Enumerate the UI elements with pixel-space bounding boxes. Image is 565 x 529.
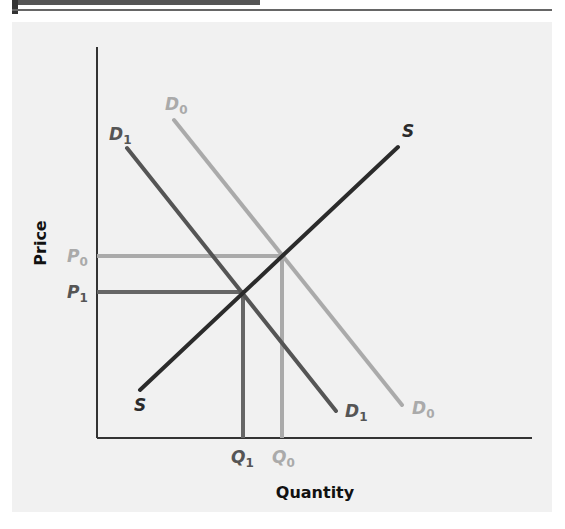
label-d1-top: D1 xyxy=(109,124,131,147)
label-s-bottom: S xyxy=(134,395,146,415)
label-s-top: S xyxy=(402,121,414,141)
label-d0-bottom: D0 xyxy=(412,398,434,421)
label-d1-bottom: D1 xyxy=(345,401,367,424)
label-q0: Q0 xyxy=(272,447,295,470)
supply-demand-diagram: S S D0 D0 D1 D1 P0 P1 Q1 Q0 Quantity Pri… xyxy=(0,0,565,529)
demand-curve-d0 xyxy=(174,120,402,405)
label-q1: Q1 xyxy=(231,447,254,470)
label-d0-top: D0 xyxy=(165,94,187,117)
y-axis-title: Price xyxy=(31,220,50,266)
label-p0: P0 xyxy=(67,246,88,269)
x-axis-title: Quantity xyxy=(276,483,355,502)
label-p1: P1 xyxy=(67,282,88,305)
